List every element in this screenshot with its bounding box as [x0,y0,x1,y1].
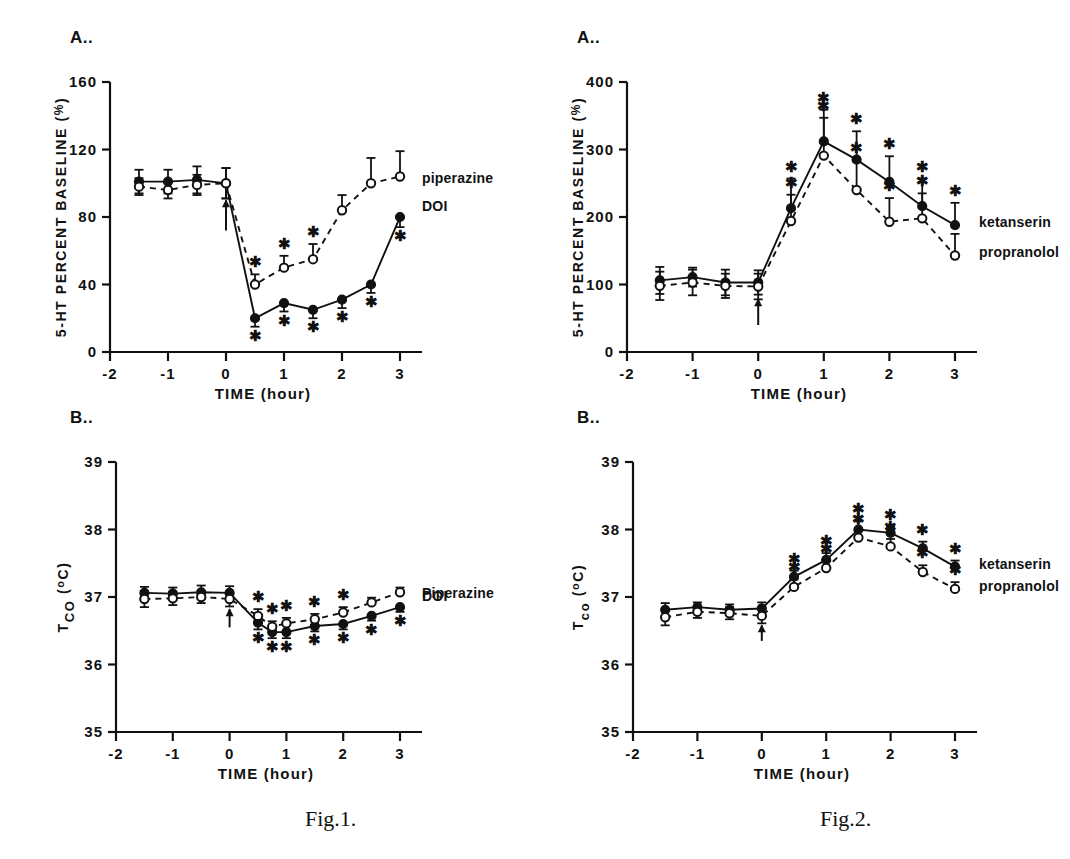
series-line-ketanserin [660,141,955,282]
panel-fig1b: B.. 3536373839-2-10123TIME (hour)TCO (oC… [48,408,528,778]
x-tick-label: -2 [619,365,634,382]
significance-asterisk: ✱ [949,540,962,557]
data-point-open [396,588,404,596]
y-tick-label: 36 [601,656,620,673]
significance-asterisk: ✱ [249,253,262,270]
significance-asterisk: ✱ [252,629,265,646]
y-tick-label: 40 [78,276,97,293]
x-tick-label: -1 [685,365,700,382]
panel-fig1a: A.. 04080120160-2-10123TIME (hour)5-HT P… [48,28,528,398]
significance-asterisk: ✱ [788,558,801,575]
y-tick-label: 37 [601,588,620,605]
x-tick-label: -2 [102,365,117,382]
data-point-open [339,608,347,616]
significance-asterisk: ✱ [337,586,350,603]
x-tick-label: 3 [950,745,959,762]
chart-plot-area-fig1a: 04080120160-2-10123TIME (hour)5-HT PERCE… [52,73,493,402]
data-point-open [725,609,733,617]
chart-fig2a: 0100200300400-2-10123TIME (hour)5-HT PER… [555,28,1055,398]
y-axis-title: Tco (oC) [569,564,592,631]
data-point-filled [251,314,260,323]
y-tick-label: 38 [601,521,620,538]
data-point-filled [396,603,405,612]
significance-asterisk: ✱ [850,110,863,127]
significance-asterisk: ✱ [249,327,262,344]
data-point-open [721,282,729,290]
y-tick-label: 0 [88,343,97,360]
significance-asterisk: ✱ [336,308,349,325]
data-point-open [661,613,669,621]
significance-asterisk: ✱ [365,293,378,310]
y-tick-label: 38 [84,521,103,538]
chart-fig1a: 04080120160-2-10123TIME (hour)5-HT PERCE… [48,28,528,398]
data-point-open [758,612,766,620]
data-point-open [197,593,205,601]
significance-asterisk: ✱ [266,638,279,655]
panel-label-fig1a: A.. [70,28,93,48]
significance-asterisk: ✱ [394,227,407,244]
significance-asterisk: ✱ [280,597,293,614]
data-point-open [282,619,290,627]
significance-asterisk: ✱ [916,521,929,538]
significance-asterisk: ✱ [883,135,896,152]
panel-fig2a: A.. 0100200300400-2-10123TIME (hour)5-HT… [555,28,1055,398]
chart-plot-area-fig2a: 0100200300400-2-10123TIME (hour)5-HT PER… [569,73,1059,402]
series-label-ketanserin: ketanserin [979,214,1051,230]
data-point-filled [367,280,376,289]
data-point-open [164,186,172,194]
injection-arrow-head [226,608,234,616]
data-point-open [309,255,317,263]
y-tick-label: 39 [84,453,103,470]
series-line-propranolol [665,538,955,618]
significance-asterisk: ✱ [884,518,897,535]
series-label-piperazine: piperazine [422,170,493,186]
x-axis-title: TIME (hour) [218,765,315,782]
x-tick-label: -1 [690,745,705,762]
data-point-open [367,598,375,606]
data-point-open [885,218,893,226]
significance-asterisk: ✱ [307,223,320,240]
y-tick-label: 80 [78,208,97,225]
series-line-DOI [139,180,400,318]
figure-sheet: A.. 04080120160-2-10123TIME (hour)5-HT P… [0,0,1070,859]
significance-asterisk: ✱ [852,510,865,527]
data-point-open [135,182,143,190]
significance-asterisk: ✱ [916,544,929,561]
figure-caption-fig1: Fig.1. [305,806,356,832]
y-tick-label: 35 [601,723,620,740]
x-axis-title: TIME (hour) [751,385,848,402]
data-point-open [169,594,177,602]
panel-label-fig1b: B.. [70,408,93,428]
y-tick-label: 39 [601,453,620,470]
significance-asterisk: ✱ [308,631,321,648]
significance-asterisk: ✱ [883,177,896,194]
y-tick-label: 160 [69,73,97,90]
injection-arrow-head [758,624,766,632]
panel-label-fig2b: B.. [577,408,600,428]
significance-asterisk: ✱ [308,593,321,610]
chart-fig1b: 3536373839-2-10123TIME (hour)TCO (oC)✱✱✱… [48,408,528,778]
series-line-piperazine [139,177,400,285]
data-point-open [951,251,959,259]
data-point-open [693,608,701,616]
data-point-open [688,278,696,286]
significance-asterisk: ✱ [916,172,929,189]
significance-asterisk: ✱ [785,174,798,191]
data-point-open [140,595,148,603]
x-tick-label: 1 [822,745,831,762]
data-point-open [886,542,894,550]
y-axis-title: 5-HT PERCENT BASELINE (%) [569,97,586,337]
y-tick-label: 35 [84,723,103,740]
data-point-filled [339,620,348,629]
significance-asterisk: ✱ [785,158,798,175]
x-tick-label: 2 [886,745,895,762]
x-tick-label: -2 [625,745,640,762]
y-tick-label: 100 [586,276,614,293]
data-point-open [222,179,230,187]
significance-asterisk: ✱ [850,139,863,156]
chart-plot-area-fig1b: 3536373839-2-10123TIME (hour)TCO (oC)✱✱✱… [54,453,494,782]
x-tick-label: 0 [225,745,234,762]
data-point-open [787,217,795,225]
significance-asterisk: ✱ [337,629,350,646]
data-point-filled [338,295,347,304]
